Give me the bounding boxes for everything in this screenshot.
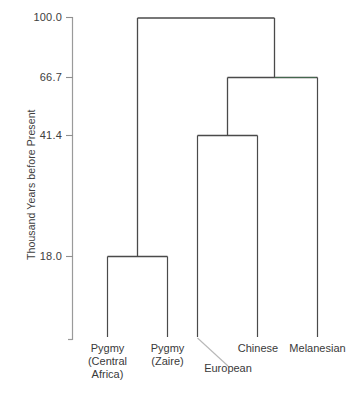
leaf-label-line: Africa) [63,368,152,381]
leaf-label-line: Melanesian [270,342,361,355]
y-tick-label-66: 66.7 [4,71,62,83]
dendrogram-plot [0,0,361,394]
leaf-label-line: European [188,362,268,375]
leaf-label-melanesian: Melanesian [270,342,361,355]
y-axis-title: Thousand Years before Present [25,109,37,260]
leaf-label-european: European [188,362,268,375]
y-tick-label-100: 100.0 [4,11,62,23]
leaf-label-line: Pygmy [124,342,211,355]
